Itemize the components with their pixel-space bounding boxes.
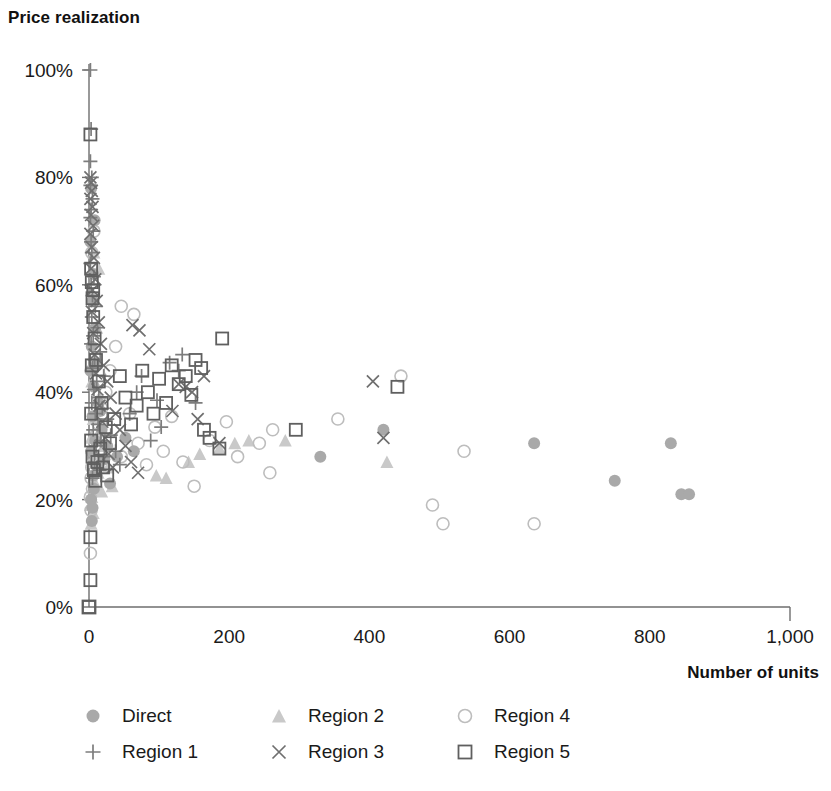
marker-open-square — [119, 392, 131, 404]
marker-open-square — [147, 408, 159, 420]
y-tick-label: 20% — [35, 490, 73, 511]
marker-cross — [273, 746, 286, 759]
legend-row: DirectRegion 2Region 4 — [78, 698, 638, 734]
series-region-2 — [84, 246, 394, 530]
x-tick-label: 1,000 — [766, 626, 814, 647]
x-tick-label: 200 — [213, 626, 245, 647]
legend-label: Region 5 — [494, 741, 570, 763]
marker-plus — [83, 154, 97, 168]
marker-open-square — [290, 424, 302, 436]
marker-open-circle — [188, 480, 200, 492]
marker-plus — [189, 396, 203, 410]
marker-open-square — [160, 397, 172, 409]
legend-label: Region 3 — [308, 741, 384, 763]
marker-filled-circle — [104, 477, 116, 489]
legend-swatch — [264, 703, 294, 729]
legend-row: Region 1Region 3Region 5 — [78, 734, 638, 770]
marker-open-circle — [458, 445, 470, 457]
marker-open-square — [216, 333, 228, 345]
marker-open-circle — [437, 518, 449, 530]
marker-plus — [150, 393, 164, 407]
legend-item-direct[interactable]: Direct — [78, 703, 264, 729]
marker-filled-triangle — [150, 469, 163, 482]
y-tick-label: 80% — [35, 167, 73, 188]
chart-legend: DirectRegion 2Region 4Region 1Region 3Re… — [78, 698, 638, 770]
legend-marker-open-circle — [452, 704, 478, 728]
marker-open-square — [153, 373, 165, 385]
marker-open-circle — [253, 437, 265, 449]
marker-plus — [83, 63, 97, 77]
marker-open-circle — [128, 308, 140, 320]
series-region-4 — [84, 225, 540, 559]
marker-open-square — [84, 574, 96, 586]
marker-open-circle — [528, 518, 540, 530]
legend-swatch — [450, 739, 480, 765]
legend-marker-open-square — [452, 740, 478, 764]
legend-swatch — [78, 703, 108, 729]
marker-filled-triangle — [160, 472, 173, 485]
marker-open-square — [459, 746, 472, 759]
series-region-5 — [83, 128, 403, 613]
marker-open-circle — [220, 416, 232, 428]
legend-item-region-1[interactable]: Region 1 — [78, 739, 264, 765]
marker-filled-triangle — [228, 437, 241, 450]
legend-marker-plus — [80, 740, 106, 764]
y-tick-label: 0% — [46, 597, 74, 618]
y-tick-label: 100% — [24, 60, 73, 81]
y-tick-label: 60% — [35, 275, 73, 296]
legend-label: Region 4 — [494, 705, 570, 727]
legend-item-region-3[interactable]: Region 3 — [264, 739, 450, 765]
marker-cross — [367, 375, 379, 387]
legend-item-region-5[interactable]: Region 5 — [450, 739, 636, 765]
x-tick-label: 600 — [494, 626, 526, 647]
marker-cross — [143, 343, 155, 355]
marker-filled-circle — [87, 502, 99, 514]
marker-plus — [144, 434, 158, 448]
legend-label: Region 2 — [308, 705, 384, 727]
marker-open-circle — [459, 710, 472, 723]
marker-open-square — [131, 400, 143, 412]
legend-swatch — [264, 739, 294, 765]
y-tick-label: 40% — [35, 382, 73, 403]
marker-filled-circle — [111, 451, 123, 463]
marker-filled-circle — [314, 451, 326, 463]
legend-label: Region 1 — [122, 741, 198, 763]
legend-item-region-4[interactable]: Region 4 — [450, 703, 636, 729]
marker-open-square — [142, 386, 154, 398]
marker-open-circle — [115, 300, 127, 312]
marker-plus — [163, 356, 177, 370]
marker-open-circle — [110, 341, 122, 353]
scatter-plot-canvas: 0%20%40%60%80%100%02004006008001,000 — [0, 0, 831, 700]
marker-open-circle — [267, 424, 279, 436]
marker-cross — [133, 324, 145, 336]
marker-filled-triangle — [193, 447, 206, 460]
marker-open-circle — [332, 413, 344, 425]
marker-filled-circle — [609, 475, 621, 487]
marker-open-circle — [157, 445, 169, 457]
marker-open-circle — [264, 467, 276, 479]
x-tick-label: 800 — [634, 626, 666, 647]
marker-open-square — [84, 531, 96, 543]
x-tick-label: 0 — [84, 626, 95, 647]
legend-swatch — [78, 739, 108, 765]
legend-marker-filled-circle — [80, 704, 106, 728]
marker-open-circle — [426, 499, 438, 511]
legend-label: Direct — [122, 705, 172, 727]
legend-item-region-2[interactable]: Region 2 — [264, 703, 450, 729]
marker-plus — [86, 745, 101, 760]
marker-filled-circle — [87, 710, 100, 723]
marker-open-square — [166, 359, 178, 371]
marker-plus — [154, 420, 168, 434]
marker-filled-circle — [683, 488, 695, 500]
marker-cross — [198, 370, 210, 382]
marker-filled-circle — [86, 515, 98, 527]
marker-open-circle — [232, 451, 244, 463]
marker-cross — [125, 456, 137, 468]
legend-marker-cross — [266, 740, 292, 764]
marker-cross — [132, 467, 144, 479]
x-tick-label: 400 — [354, 626, 386, 647]
marker-filled-circle — [665, 437, 677, 449]
marker-filled-circle — [528, 437, 540, 449]
marker-open-circle — [84, 547, 96, 559]
marker-filled-triangle — [272, 709, 286, 723]
